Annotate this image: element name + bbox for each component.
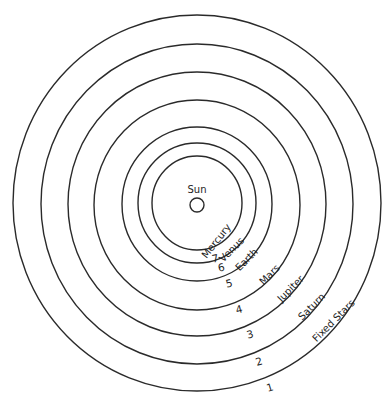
label-saturn: Saturn xyxy=(296,291,327,322)
sun-icon xyxy=(190,198,204,212)
number-1: 1 xyxy=(265,380,275,393)
heliocentric-diagram: Sun Mercury Venus Earth Mars Jupiter Sat… xyxy=(0,0,388,403)
number-4: 4 xyxy=(234,302,244,315)
number-5: 5 xyxy=(224,276,233,289)
label-mars: Mars xyxy=(257,262,282,287)
orbit-mercury xyxy=(152,156,242,250)
sun-label: Sun xyxy=(187,184,206,195)
number-3: 3 xyxy=(245,327,255,340)
label-jupiter: Jupiter xyxy=(274,272,306,304)
number-2: 2 xyxy=(254,354,264,367)
